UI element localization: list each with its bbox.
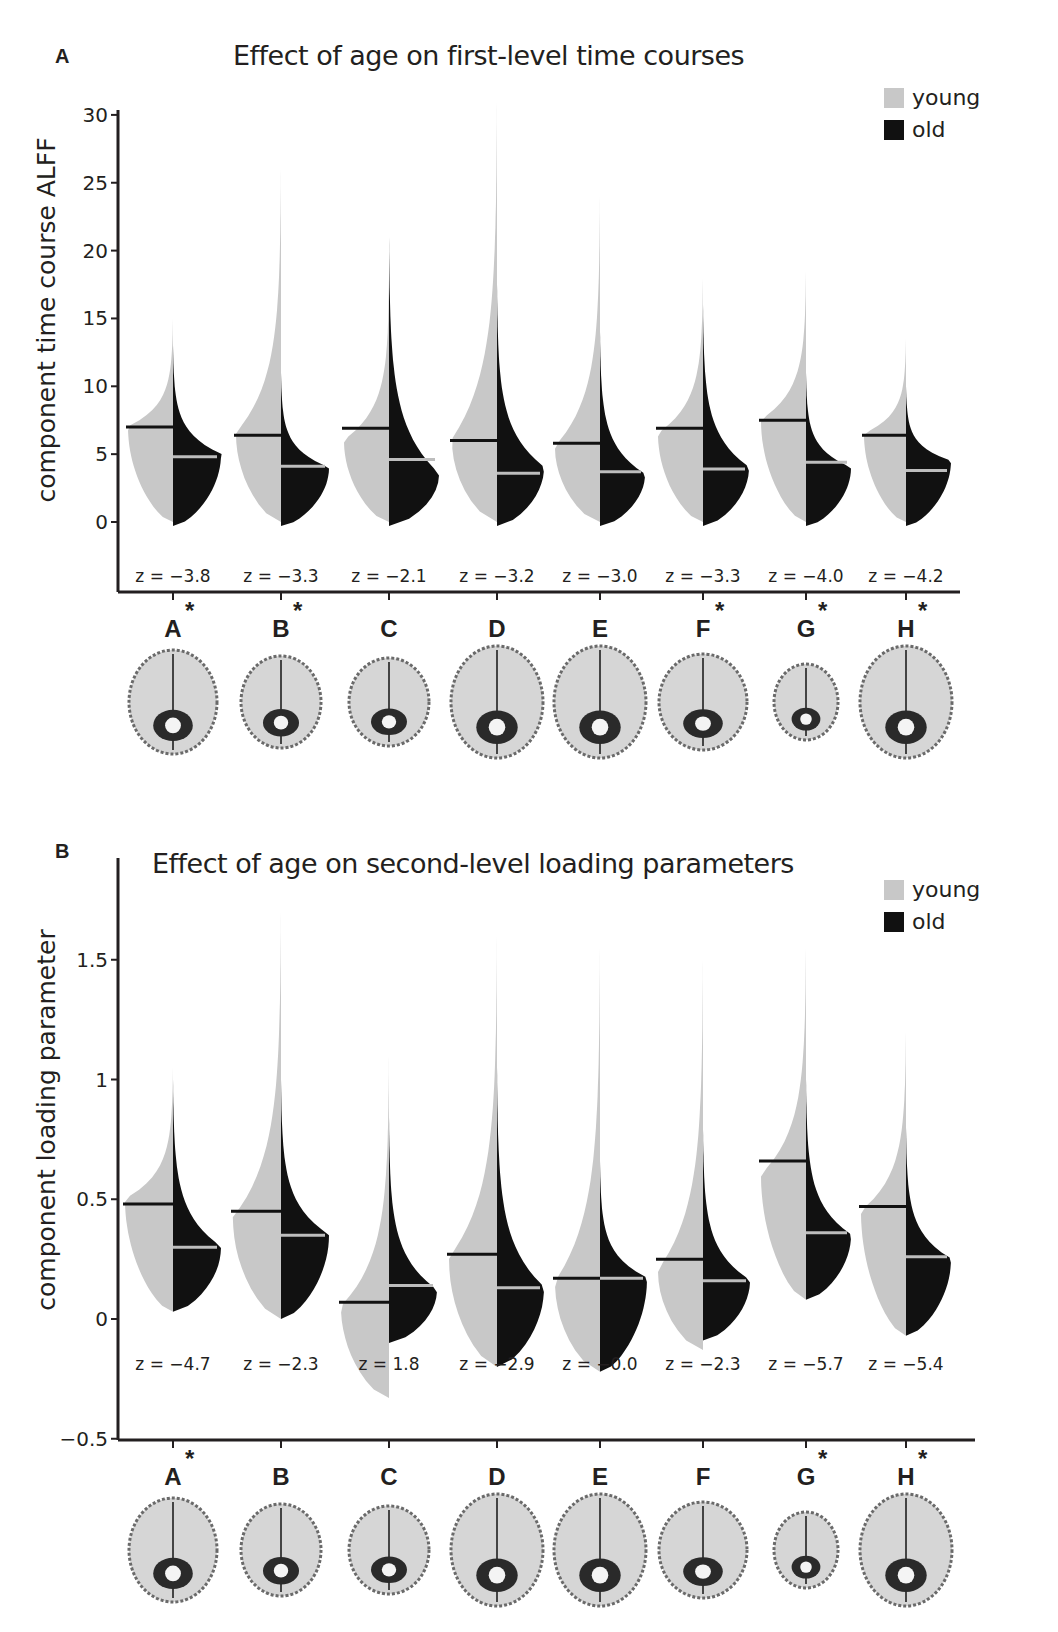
category-label: B (272, 1463, 289, 1490)
brain-slice-icon (129, 1498, 217, 1602)
violin-old (389, 237, 439, 526)
brain-slice-icon (860, 646, 952, 758)
brain-slice-icon (349, 1506, 429, 1594)
significance-star: * (715, 597, 725, 624)
z-score-label: z = −2.3 (243, 1354, 318, 1374)
violin-young (761, 271, 806, 522)
z-score-label: z = −4.2 (868, 566, 943, 586)
category-label: B (272, 615, 289, 642)
violin-old (703, 305, 749, 526)
category-label: D (488, 615, 505, 642)
violin-b (234, 169, 329, 526)
significance-star: * (293, 597, 303, 624)
violin-old (806, 1080, 851, 1300)
violin-f (656, 960, 750, 1350)
violin-c (339, 1056, 437, 1399)
violin-b (231, 912, 329, 1319)
violin-young (555, 196, 600, 522)
z-score-label: z = −2.9 (459, 1354, 534, 1374)
category-label: D (488, 1463, 505, 1490)
violin-young (449, 936, 497, 1367)
violin-d (447, 936, 544, 1367)
panel-a: A Effect of age on first-level time cour… (0, 0, 1058, 800)
violin-young (658, 278, 703, 522)
violin-g (759, 948, 851, 1300)
z-score-label: z = −2.3 (665, 1354, 740, 1374)
category-label: C (380, 1463, 397, 1490)
z-score-label: z = −5.7 (768, 1354, 843, 1374)
brain-slice-icon (659, 654, 747, 750)
y-tick-label: 1.5 (76, 948, 108, 972)
violin-g (759, 271, 851, 526)
violin-old (906, 386, 951, 526)
z-score-label: z = −5.4 (868, 1354, 943, 1374)
violin-d (450, 101, 544, 526)
legend-swatch-young (884, 880, 904, 900)
y-tick-label: 25 (83, 171, 108, 195)
brain-slice-icon (129, 650, 217, 754)
category-label: E (592, 1463, 608, 1490)
legend-swatch-old (884, 912, 904, 932)
y-tick-label: 1 (95, 1068, 108, 1092)
z-score-label: z = −3.3 (665, 566, 740, 586)
legend-swatch-old (884, 120, 904, 140)
violin-old (281, 373, 329, 526)
brain-slice-icon (241, 656, 321, 748)
violin-f (656, 278, 749, 526)
violin-young (861, 1032, 906, 1336)
category-label: G (797, 615, 816, 642)
violin-young (864, 339, 906, 522)
z-score-label: z = −3.0 (562, 566, 637, 586)
violin-young (125, 1068, 173, 1312)
violin-young (761, 948, 806, 1300)
legend-label-old: old (912, 117, 946, 142)
violin-old (497, 1068, 544, 1367)
violin-young (341, 1056, 389, 1399)
z-score-label: z = −3.2 (459, 566, 534, 586)
brain-slice-icon (860, 1494, 952, 1606)
y-tick-label: 0 (95, 1307, 108, 1331)
legend-label-old: old (912, 909, 946, 934)
category-label: G (797, 1463, 816, 1490)
violin-old (806, 373, 851, 526)
violin-young (128, 318, 173, 522)
violin-c (342, 237, 439, 526)
violin-e (553, 196, 645, 526)
z-score-label: z = −4.7 (135, 1354, 210, 1374)
brain-slice-icon (451, 646, 543, 758)
violin-old (703, 1130, 750, 1341)
y-tick-label: 30 (83, 103, 108, 127)
y-tick-label: 20 (83, 239, 108, 263)
category-label: H (897, 615, 914, 642)
violin-young (658, 960, 703, 1350)
brain-slice-icon (774, 664, 838, 740)
y-tick-label: 5 (95, 442, 108, 466)
violin-old (173, 346, 222, 527)
z-score-label: z = −4.0 (768, 566, 843, 586)
violin-old (389, 1118, 437, 1343)
violin-chart-a: 051015202530component time course ALFFz … (0, 0, 1058, 800)
y-axis-label: component time course ALFF (32, 137, 61, 502)
panel-b: B Effect of age on second-level loading … (0, 800, 1058, 1632)
category-label: A (164, 1463, 181, 1490)
y-axis-label: component loading parameter (32, 929, 61, 1311)
violin-young (452, 101, 497, 522)
brain-slice-icon (349, 658, 429, 746)
legend-label-young: young (912, 877, 980, 902)
violin-young (233, 912, 281, 1319)
category-label: F (696, 615, 711, 642)
legend-swatch-young (884, 88, 904, 108)
brain-slice-icon (554, 646, 646, 758)
significance-star: * (185, 597, 195, 624)
violin-old (281, 1080, 329, 1320)
violin-young (236, 169, 281, 522)
significance-star: * (918, 597, 928, 624)
violin-young (555, 948, 600, 1372)
category-label: C (380, 615, 397, 642)
z-score-label: z = −3.8 (135, 566, 210, 586)
violin-e (553, 948, 647, 1372)
violin-young (344, 278, 389, 522)
z-score-label: z = 1.8 (358, 1354, 419, 1374)
violin-old (497, 285, 544, 527)
z-score-label: z = −0.0 (562, 1354, 637, 1374)
